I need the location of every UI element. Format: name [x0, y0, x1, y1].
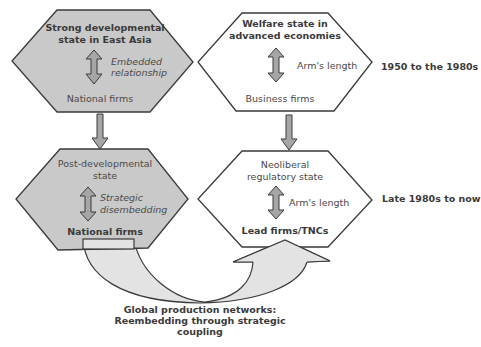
- hex1-relation-line1: Embedded: [111, 56, 162, 67]
- period-early: 1950 to the 1980s: [381, 61, 478, 72]
- hex1-relation-line2: relationship: [111, 67, 167, 78]
- hex2-relation: Arm's length: [297, 60, 357, 71]
- hex3-firms: National firms: [50, 226, 160, 237]
- hex3-relation-line2: disembedding: [100, 204, 167, 215]
- coupling-caption-line2: Reembedding through strategic: [110, 315, 290, 326]
- period-late: Late 1980s to now: [382, 193, 481, 204]
- hex1-title-line2: state in East Asia: [40, 34, 170, 45]
- hex1-title-line1: Strong developmental: [40, 22, 170, 33]
- coupling-band-top: [83, 239, 134, 249]
- coupling-caption-line1: Global production networks:: [110, 304, 290, 315]
- hex3-title-line1: Post-developmental: [40, 158, 170, 169]
- coupling-caption-line3: coupling: [110, 326, 290, 337]
- hex2-title-line2: advanced economies: [225, 30, 345, 41]
- hex3-title-line2: state: [40, 170, 170, 181]
- hex4-firms: Lead firms/TNCs: [235, 225, 335, 236]
- hex4-relation: Arm's length: [289, 197, 349, 208]
- hex4-title-line1: Neoliberal: [225, 159, 345, 170]
- hex3-relation-line1: Strategic: [100, 192, 143, 203]
- down-arrow-right: [281, 115, 297, 150]
- hex2-firms: Business firms: [240, 93, 320, 104]
- down-arrow-left: [92, 114, 108, 149]
- hex4-title-line2: regulatory state: [225, 171, 345, 182]
- hex2-title-line1: Welfare state in: [225, 18, 345, 29]
- hex1-firms: National firms: [50, 93, 150, 104]
